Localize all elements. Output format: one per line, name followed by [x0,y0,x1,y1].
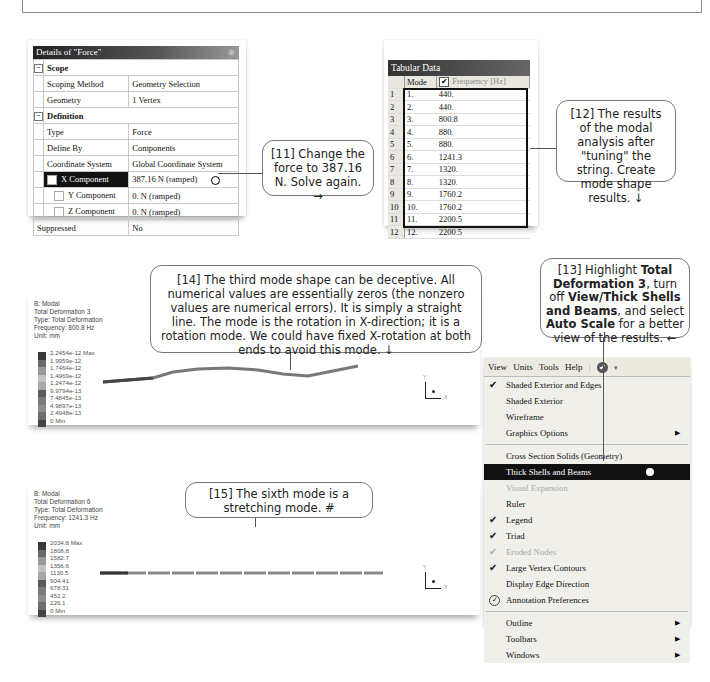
menu-item-toolbars[interactable]: Toolbars▶ [484,631,690,647]
top-frame [22,0,702,13]
submenu-arrow-icon: ▶ [675,615,680,631]
group-label: Scope [44,60,239,76]
menu-item-visual-expansion: Visual Expansion [484,480,690,496]
menu-item-wireframe[interactable]: Wireframe [484,409,690,425]
callout-14: [14] The third mode shape can be decepti… [150,265,482,353]
menu-item-windows[interactable]: Windows▶ [484,647,690,663]
leader-ring-icon [211,176,220,185]
table-row[interactable]: 1111.2200.5 [388,213,530,226]
row-value[interactable]: No [129,220,239,236]
table-row[interactable]: 44.880. [388,126,530,139]
menu-view[interactable]: View [488,362,507,372]
table-row[interactable]: 33.800.8 [388,113,530,126]
row-label: Coordinate System [44,156,129,172]
row-value[interactable]: 0. N (ramped) [129,188,239,204]
checkbox-checked-icon[interactable]: ✔ [439,77,449,87]
collapse-icon[interactable]: − [34,60,44,76]
callout-text: [15] The sixth mode is a stretching mode… [209,487,349,515]
toolbar-separator: | [589,362,591,372]
details-row[interactable]: Suppressed No [34,220,239,236]
details-row[interactable]: Geometry 1 Vertex [34,92,239,108]
details-row-x-component[interactable]: X Component 387.16 N (ramped) [34,172,239,188]
tabular-data-panel: Tabular Data Mode ✔Frequency [Hz] 11.440… [384,40,538,226]
menu-item-display-edge-direction[interactable]: Display Edge Direction [484,576,690,592]
menu-item-thick-shells-beams[interactable]: Thick Shells and Beams [484,464,690,480]
menu-item-large-vertex-contours[interactable]: ✔Large Vertex Contours [484,560,690,576]
row-value[interactable]: Components [129,140,239,156]
leader-line [530,148,558,149]
menu-item-ruler[interactable]: Ruler [484,496,690,512]
menu-item-legend[interactable]: ✔Legend [484,512,690,528]
plot-info: B: ModalTotal Deformation 6Type: Total D… [34,490,103,530]
tabular-title: Tabular Data [388,60,530,76]
menu-tools[interactable]: Tools [539,362,559,372]
parameter-checkbox[interactable] [54,191,64,201]
group-scope[interactable]: − Scope [34,60,239,76]
pin-icon[interactable]: ⊕ [228,46,235,59]
parameter-checkbox[interactable] [47,175,57,185]
menu-units[interactable]: Units [513,362,533,372]
details-row[interactable]: Scoping Method Geometry Selection [34,76,239,92]
row-label: X Component [44,172,129,188]
parameter-checkbox[interactable] [54,207,64,217]
table-row[interactable]: 22.440. [388,101,530,114]
details-title-bar: Details of "Force" ⊕ [33,46,239,59]
callout-text: [12] The results of the modal analysis a… [571,107,662,205]
group-definition[interactable]: − Definition [34,108,239,124]
details-row[interactable]: Define By Components [34,140,239,156]
table-row[interactable]: 66.1241.3 [388,151,530,164]
menu-item-graphics-options[interactable]: Graphics Options▶ [484,425,690,441]
callout-13: [13] Highlight Total Deformation 3, turn… [540,258,690,338]
submenu-arrow-icon: ▶ [675,425,680,441]
table-row[interactable]: 77.1320. [388,163,530,176]
triad-icon: Y X [422,564,452,594]
check-icon: ✔ [489,528,497,544]
annotation-icon: ✓ [489,595,500,606]
row-value[interactable]: 1 Vertex [129,92,239,108]
row-value[interactable]: 0. N (ramped) [129,204,239,220]
leader-dot-icon [646,468,654,476]
check-icon: ✔ [489,512,497,528]
callout-12: [12] The results of the modal analysis a… [556,100,676,182]
menu-item-triad[interactable]: ✔Triad [484,528,690,544]
leader-line [218,173,262,174]
menu-separator [486,611,688,612]
table-row[interactable]: 1212.2200.5 [388,226,530,239]
view-menu: ✔Shaded Exterior and Edges Shaded Exteri… [484,377,690,663]
row-label: Define By [44,140,129,156]
details-table: − Scope Scoping Method Geometry Selectio… [33,59,239,236]
frequency-column-header[interactable]: ✔Frequency [Hz] [437,76,530,88]
row-value[interactable]: Force [129,124,239,140]
details-row[interactable]: Type Force [34,124,239,140]
menu-item-cross-section-solids[interactable]: Cross Section Solids (Geometry) [484,448,690,464]
callout-15: [15] The sixth mode is a stretching mode… [185,482,373,518]
details-row[interactable]: Coordinate System Global Coordinate Syst… [34,156,239,172]
row-label: Geometry [44,92,129,108]
view-menu-panel: View Units Tools Help | ✔ ▾ ✔Shaded Exte… [484,358,690,626]
menu-item-annotation-preferences[interactable]: ✓Annotation Preferences [484,592,690,608]
menu-help[interactable]: Help [565,362,583,372]
check-icon: ✔ [489,560,497,576]
menu-item-outline[interactable]: Outline▶ [484,615,690,631]
collapse-icon[interactable]: − [34,108,44,124]
row-label: Suppressed [34,220,129,236]
details-panel: Details of "Force" ⊕ − Scope Scoping Met… [28,40,246,216]
row-label: Y Component [44,188,129,204]
table-row[interactable]: 88.1320. [388,176,530,189]
details-row[interactable]: Z Component 0. N (ramped) [34,204,239,220]
plot-info: B: ModalTotal Deformation 3Type: Total D… [34,300,103,340]
menu-item-eroded-nodes: ✔Eroded Nodes [484,544,690,560]
table-row[interactable]: 1010.1760.2 [388,201,530,214]
mode-column-header[interactable]: Mode [405,76,437,88]
row-value[interactable]: Global Coordinate System [129,156,239,172]
menubar: View Units Tools Help | ✔ ▾ [484,358,690,377]
details-row[interactable]: Y Component 0. N (ramped) [34,188,239,204]
row-value[interactable]: Geometry Selection [129,76,239,92]
table-row[interactable]: 55.880. [388,138,530,151]
menu-item-shaded-exterior[interactable]: Shaded Exterior [484,393,690,409]
check-icon: ✔ [489,377,497,393]
dropdown-arrow-icon[interactable]: ▾ [614,364,618,372]
table-row[interactable]: 99.1760.2 [388,188,530,201]
menu-item-shaded-exterior-edges[interactable]: ✔Shaded Exterior and Edges [484,377,690,393]
table-row[interactable]: 11.440. [388,88,530,101]
